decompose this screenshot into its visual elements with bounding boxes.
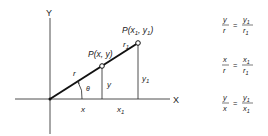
equation-1: y r = y1 r1 xyxy=(222,15,253,36)
point-p1-label: P(x1, y1) xyxy=(122,25,153,36)
svg-text:y: y xyxy=(222,93,228,102)
svg-text:r: r xyxy=(223,66,226,75)
y-label: y xyxy=(106,80,112,89)
y-axis-label: Y xyxy=(46,8,52,18)
x1-label: x1 xyxy=(116,105,124,115)
equation-2: x r = x1 r1 xyxy=(222,55,253,76)
svg-text:y1: y1 xyxy=(242,93,250,103)
theta-label: θ xyxy=(86,85,90,92)
point-p1 xyxy=(136,41,141,46)
svg-text:=: = xyxy=(233,21,238,30)
svg-text:y1: y1 xyxy=(242,15,250,25)
svg-text:r: r xyxy=(223,26,226,35)
svg-text:r1: r1 xyxy=(243,66,249,76)
svg-text:x: x xyxy=(222,55,227,64)
x-label: x xyxy=(80,105,86,114)
svg-text:x1: x1 xyxy=(242,55,250,65)
r1-label: r1 xyxy=(123,40,129,50)
x-axis-label: X xyxy=(173,95,179,105)
svg-text:=: = xyxy=(233,99,238,108)
svg-text:x1: x1 xyxy=(242,104,250,114)
equation-3: y x = y1 x1 xyxy=(222,93,253,114)
svg-text:=: = xyxy=(233,61,238,70)
svg-text:y: y xyxy=(222,15,228,24)
similar-triangles-diagram: Y X P(x, y) P(x1, y1) r r1 θ y y1 x x1 y… xyxy=(0,0,268,136)
origin-point xyxy=(49,98,52,101)
r-label: r xyxy=(73,69,76,78)
svg-text:r1: r1 xyxy=(243,26,249,36)
y1-label: y1 xyxy=(141,74,149,84)
theta-arc xyxy=(78,82,82,99)
svg-text:x: x xyxy=(222,104,227,113)
point-p xyxy=(100,64,105,69)
point-p-label: P(x, y) xyxy=(88,49,113,59)
